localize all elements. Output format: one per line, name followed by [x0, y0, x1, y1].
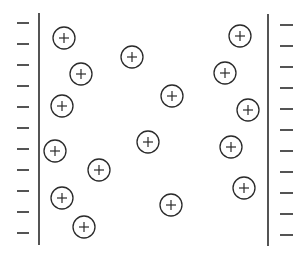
- positive-ion: [70, 63, 92, 85]
- positive-ion: [214, 62, 236, 84]
- positive-ion: [73, 216, 95, 238]
- positive-ion: [88, 159, 110, 181]
- right-plate-charges: [280, 25, 293, 235]
- positive-ion: [51, 187, 73, 209]
- positive-ion: [121, 46, 143, 68]
- positive-ion: [233, 177, 255, 199]
- positive-ion: [160, 194, 182, 216]
- positive-ion: [161, 85, 183, 107]
- positive-ion: [220, 136, 242, 158]
- positive-ion: [137, 131, 159, 153]
- positive-ion: [44, 140, 66, 162]
- charged-plates-diagram: [0, 0, 307, 255]
- positive-ion: [237, 99, 259, 121]
- positive-ions: [44, 25, 259, 238]
- left-plate: [17, 13, 39, 245]
- left-plate-charges: [17, 23, 29, 233]
- positive-ion: [51, 95, 73, 117]
- positive-ion: [229, 25, 251, 47]
- right-plate: [268, 14, 293, 246]
- positive-ion: [53, 27, 75, 49]
